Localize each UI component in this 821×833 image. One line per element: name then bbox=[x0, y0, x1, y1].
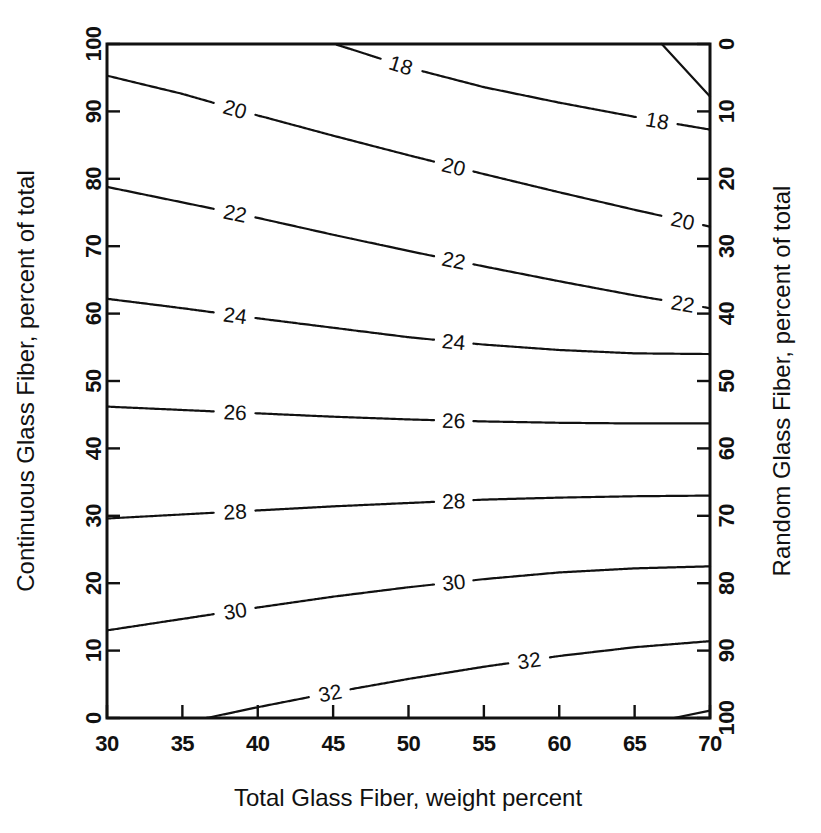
contour-label-28-1: 28 bbox=[223, 500, 248, 524]
y-tick-label: 90 bbox=[81, 99, 106, 123]
contour-label-18-2: 18 bbox=[644, 107, 671, 134]
contour-label-22-2: 22 bbox=[440, 247, 468, 274]
y2-tick-label: 10 bbox=[714, 99, 739, 123]
x-tick-label: 50 bbox=[397, 731, 421, 756]
contour-line-22-seg4 bbox=[703, 307, 710, 308]
contour-label-22-3: 22 bbox=[669, 290, 696, 317]
contour-plot-figure: 181820202022222224242626282830303232 303… bbox=[0, 0, 821, 833]
contour-label-24-1: 24 bbox=[222, 302, 249, 328]
y2-tick-label: 100 bbox=[714, 700, 739, 735]
contour-label-26-1: 26 bbox=[223, 400, 247, 424]
y-tick-label: 60 bbox=[81, 302, 106, 326]
y2-tick-label: 70 bbox=[714, 504, 739, 528]
contour-label-28-2: 28 bbox=[442, 489, 466, 513]
contour-label-30-2: 30 bbox=[441, 570, 467, 595]
y2-tick-label: 40 bbox=[714, 302, 739, 326]
y2-tick-label: 90 bbox=[714, 639, 739, 663]
contour-label-30-1: 30 bbox=[222, 598, 249, 624]
y2-tick-label: 60 bbox=[714, 436, 739, 460]
y-tick-label: 70 bbox=[81, 234, 106, 258]
x-tick-label: 45 bbox=[321, 731, 345, 756]
y-tick-label: 10 bbox=[81, 639, 106, 663]
x-axis-title: Total Glass Fiber, weight percent bbox=[234, 784, 582, 811]
x-tick-label: 40 bbox=[246, 731, 270, 756]
x-tick-label: 60 bbox=[548, 731, 572, 756]
y2-tick-label: 0 bbox=[714, 38, 739, 50]
contour-label-22-1: 22 bbox=[221, 200, 249, 227]
x-tick-label: 55 bbox=[472, 731, 496, 756]
figure-background bbox=[0, 0, 821, 833]
y2-tick-label: 30 bbox=[714, 234, 739, 258]
y-tick-label: 40 bbox=[81, 436, 106, 460]
y-tick-label: 50 bbox=[81, 369, 106, 393]
y-tick-label: 20 bbox=[81, 571, 106, 595]
y2-tick-label: 80 bbox=[714, 571, 739, 595]
y2-tick-label: 50 bbox=[714, 369, 739, 393]
y2-axis-title: Random Glass Fiber, percent of total bbox=[768, 186, 795, 577]
y-tick-label: 0 bbox=[81, 712, 106, 724]
y-tick-label: 100 bbox=[81, 26, 106, 61]
y-tick-label: 30 bbox=[81, 504, 106, 528]
contour-label-24-2: 24 bbox=[441, 329, 467, 354]
contour-line-20-seg4 bbox=[703, 225, 710, 227]
y-axis-title: Continuous Glass Fiber, percent of total bbox=[12, 170, 39, 592]
y2-tick-label: 20 bbox=[714, 167, 739, 191]
y-tick-label: 80 bbox=[81, 167, 106, 191]
contour-label-32-1: 32 bbox=[316, 679, 343, 706]
x-tick-label: 65 bbox=[623, 731, 647, 756]
x-axis-tick-labels: 303540455055606570 bbox=[95, 731, 722, 756]
contour-label-32-2: 32 bbox=[516, 647, 542, 673]
x-tick-label: 30 bbox=[95, 731, 119, 756]
contour-label-26-2: 26 bbox=[442, 409, 466, 433]
x-tick-label: 35 bbox=[171, 731, 195, 756]
contour-plot-svg: 181820202022222224242626282830303232 303… bbox=[0, 0, 821, 833]
